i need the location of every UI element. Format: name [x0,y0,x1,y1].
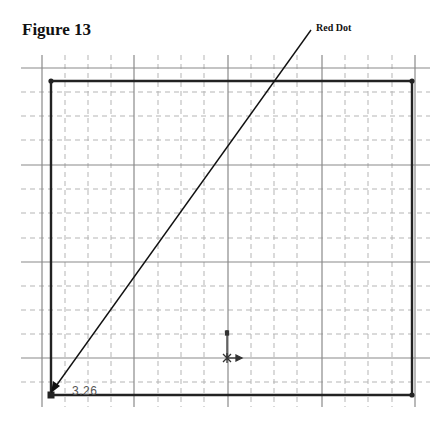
dimension-label[interactable]: 3.26 [72,384,97,398]
vertex-bottom-left-square[interactable] [48,392,55,399]
origin-y-tick [226,331,229,335]
callout-label: Red Dot [316,22,351,33]
major-grid [21,55,430,407]
origin-x-arrow-icon [236,355,242,361]
minor-grid [21,55,430,407]
leader-line [56,30,311,386]
sketch-canvas [0,0,448,425]
vertex-top-left[interactable] [48,78,53,83]
vertex-top-right[interactable] [409,78,414,83]
vertex-bottom-right[interactable] [409,392,414,397]
figure-title: Figure 13 [22,20,91,40]
